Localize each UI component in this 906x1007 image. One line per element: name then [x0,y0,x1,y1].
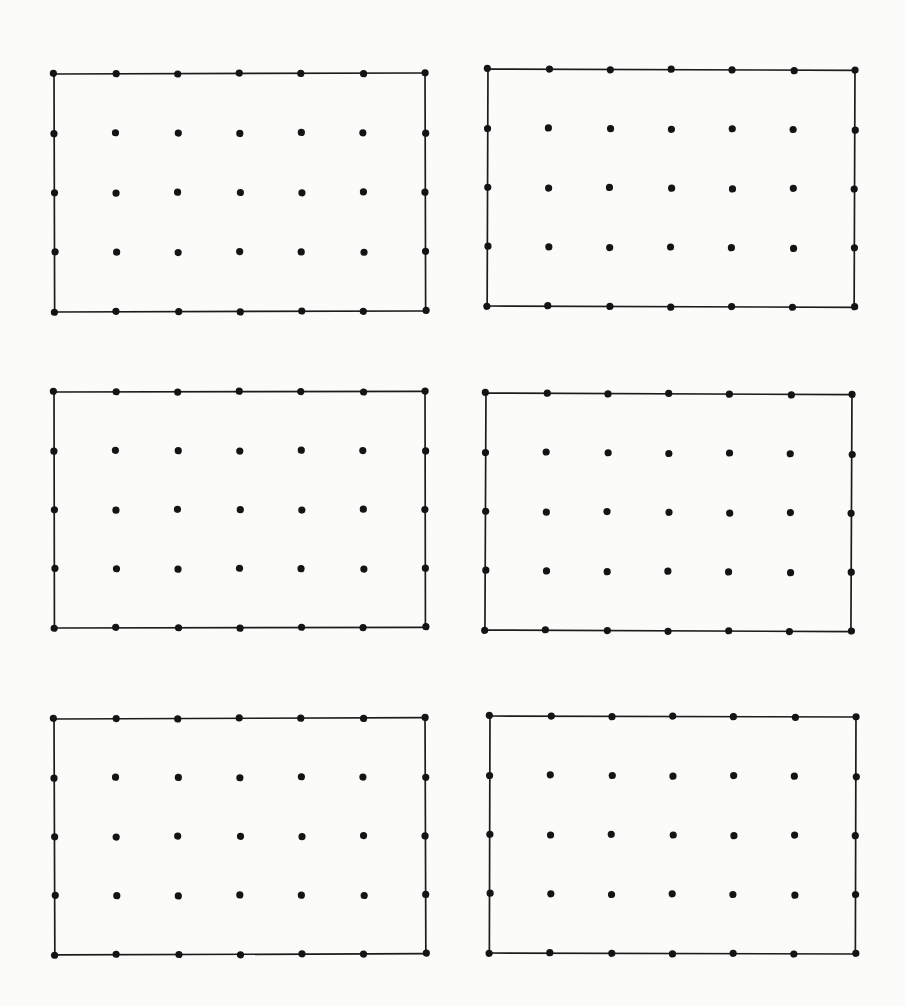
grid-dot[interactable] [50,388,57,395]
grid-dot[interactable] [112,308,119,315]
grid-dot[interactable] [236,774,243,781]
panel-middle-left[interactable] [46,383,433,636]
grid-dot[interactable] [421,506,428,513]
grid-dot[interactable] [360,388,367,395]
grid-dot[interactable] [175,249,182,256]
grid-dot[interactable] [608,950,615,957]
grid-dot[interactable] [606,244,613,251]
grid-dot[interactable] [298,447,305,454]
grid-dot[interactable] [174,715,181,722]
grid-dot[interactable] [787,569,794,576]
grid-dot[interactable] [360,565,367,572]
grid-dot[interactable] [730,772,737,779]
grid-dot[interactable] [482,567,489,574]
grid-dot[interactable] [51,309,58,316]
grid-dot[interactable] [847,510,854,517]
grid-dot[interactable] [113,70,120,77]
grid-dot[interactable] [730,832,737,839]
grid-dot[interactable] [174,832,181,839]
grid-dot[interactable] [422,130,429,137]
grid-dot[interactable] [547,831,554,838]
grid-dot[interactable] [421,387,428,394]
grid-dot[interactable] [482,508,489,515]
grid-dot[interactable] [664,628,671,635]
grid-dot[interactable] [112,447,119,454]
grid-dot[interactable] [51,189,58,196]
grid-dot[interactable] [852,950,859,957]
grid-dot[interactable] [298,307,305,314]
grid-dot[interactable] [852,127,859,134]
grid-dot[interactable] [486,712,493,719]
grid-dot[interactable] [609,772,616,779]
grid-dot[interactable] [608,831,615,838]
grid-dot[interactable] [667,304,674,311]
grid-dot[interactable] [484,243,491,250]
grid-dot[interactable] [175,624,182,631]
grid-dot[interactable] [237,951,244,958]
grid-dot[interactable] [848,569,855,576]
grid-dot[interactable] [730,950,737,957]
grid-dot[interactable] [236,714,243,721]
grid-dot[interactable] [175,892,182,899]
grid-dot[interactable] [851,66,858,73]
grid-dot[interactable] [606,303,613,310]
grid-dot[interactable] [236,388,243,395]
grid-dot[interactable] [548,712,555,719]
grid-dot[interactable] [604,390,611,397]
grid-dot[interactable] [729,185,736,192]
grid-dot[interactable] [725,568,732,575]
grid-dot[interactable] [360,950,367,957]
grid-dot[interactable] [668,185,675,192]
grid-dot[interactable] [174,506,181,513]
grid-dot[interactable] [423,949,430,956]
grid-dot[interactable] [298,624,305,631]
grid-dot[interactable] [604,627,611,634]
grid-dot[interactable] [546,949,553,956]
grid-dot[interactable] [423,307,430,314]
grid-dot[interactable] [848,627,855,634]
grid-dot[interactable] [236,447,243,454]
grid-dot[interactable] [665,509,672,516]
grid-dot[interactable] [547,890,554,897]
grid-dot[interactable] [607,66,614,73]
grid-dot[interactable] [853,773,860,780]
grid-dot[interactable] [297,388,304,395]
grid-dot[interactable] [668,126,675,133]
grid-dot[interactable] [236,891,243,898]
grid-dot[interactable] [605,449,612,456]
panel-top-right[interactable] [479,61,863,315]
grid-dot[interactable] [545,243,552,250]
grid-dot[interactable] [297,715,304,722]
grid-dot[interactable] [236,69,243,76]
grid-dot[interactable] [421,69,428,76]
grid-dot[interactable] [791,831,798,838]
grid-dot[interactable] [670,831,677,838]
grid-dot[interactable] [360,715,367,722]
grid-dot[interactable] [360,832,367,839]
grid-dot[interactable] [174,189,181,196]
grid-dot[interactable] [665,390,672,397]
grid-dot[interactable] [113,715,120,722]
panel-middle-right[interactable] [477,385,860,640]
grid-dot[interactable] [728,303,735,310]
grid-dot[interactable] [422,447,429,454]
grid-dot[interactable] [175,774,182,781]
grid-dot[interactable] [421,714,428,721]
grid-dot[interactable] [603,508,610,515]
grid-dot[interactable] [543,508,550,515]
grid-dot[interactable] [544,390,551,397]
grid-dot[interactable] [113,951,120,958]
grid-dot[interactable] [543,448,550,455]
grid-dot[interactable] [112,129,119,136]
grid-dot[interactable] [174,566,181,573]
grid-dot[interactable] [51,565,58,572]
grid-dot[interactable] [51,506,58,513]
grid-dot[interactable] [421,832,428,839]
grid-dot[interactable] [175,951,182,958]
grid-dot[interactable] [422,248,429,255]
grid-dot[interactable] [51,625,58,632]
grid-dot[interactable] [112,190,119,197]
grid-dot[interactable] [790,950,797,957]
grid-dot[interactable] [298,189,305,196]
grid-dot[interactable] [486,831,493,838]
